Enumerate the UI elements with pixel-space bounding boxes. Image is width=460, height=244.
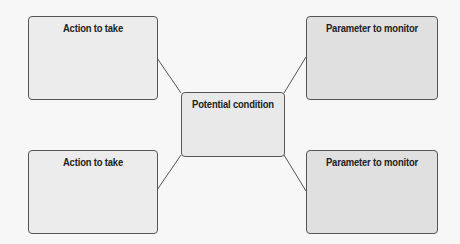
action-box-top-label: Action to take — [41, 22, 146, 34]
connector-bottom-left — [157, 155, 181, 190]
condition-box-label: Potential condition — [191, 98, 275, 110]
action-box-bottom-label: Action to take — [41, 156, 146, 168]
parameter-box-top: Parameter to monitor — [306, 16, 438, 100]
connector-top-left — [157, 58, 181, 93]
connector-top-right — [284, 57, 306, 93]
parameter-box-bottom-label: Parameter to monitor — [319, 156, 426, 168]
action-box-top: Action to take — [28, 16, 158, 100]
parameter-box-top-label: Parameter to monitor — [319, 22, 426, 34]
condition-box-center: Potential condition — [181, 92, 285, 157]
action-box-bottom: Action to take — [28, 150, 158, 234]
parameter-box-bottom: Parameter to monitor — [306, 150, 438, 234]
connector-bottom-right — [284, 155, 306, 191]
